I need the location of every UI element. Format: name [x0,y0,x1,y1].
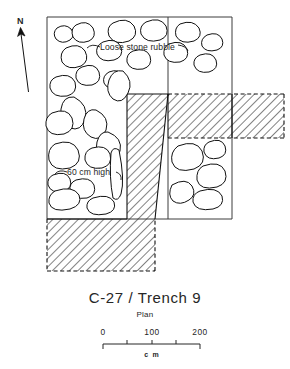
stone [194,54,217,73]
stone [87,196,115,215]
stone [85,147,111,168]
stone [46,111,73,135]
scale-label-100: 100 [144,327,159,337]
stone [76,65,100,85]
stone [197,164,226,188]
title-block: C-27 / Trench 9 Plan [89,289,201,319]
stone-group-northwest [50,20,223,101]
stone [50,75,76,96]
north-arrow: N [17,16,29,92]
stone-group-east [170,140,226,209]
stone [61,46,87,68]
stone [72,23,94,43]
stone [49,189,80,210]
scale-bar: 0 100 200 c m [100,327,207,358]
annotation-height-label: 60 cm high [67,167,110,177]
stone-elongated [110,149,122,200]
stone [176,22,201,42]
baulk-east-hatch-fill [168,94,284,138]
stone [170,181,194,203]
north-arrow-label: N [17,16,24,26]
scale-unit-label: c m [144,351,160,358]
stone [204,140,226,159]
figure-subtitle: Plan [136,310,153,319]
plan-canvas: N [0,0,290,369]
stone [49,142,80,169]
archaeological-plan-figure: N [0,0,290,369]
stone [141,20,168,41]
scale-label-0: 0 [100,327,105,337]
stone [193,189,223,209]
stone [108,20,136,43]
scale-label-200: 200 [192,327,207,337]
stone-group-southwest [46,97,123,215]
figure-title: C-27 / Trench 9 [89,289,201,306]
annotation-rubble-label: Loose stone rubble [100,42,175,52]
stone [127,50,151,70]
annotation-loose-stone-rubble: Loose stone rubble [87,42,188,52]
stone [54,26,73,43]
north-arrow-shaft [21,30,29,92]
stone [202,34,223,51]
stone [172,143,204,170]
